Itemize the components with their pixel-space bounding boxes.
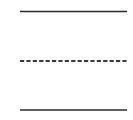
line-style-diagram (0, 0, 133, 120)
diagram-svg (0, 0, 133, 120)
